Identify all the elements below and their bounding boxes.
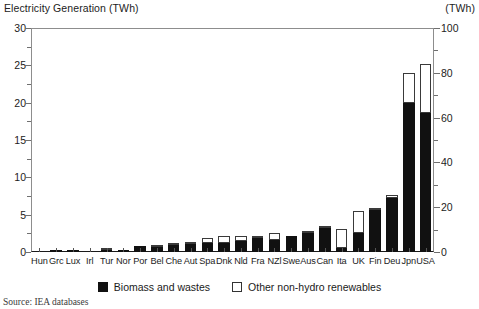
x-label-hun: Hun <box>31 256 48 266</box>
y-tick-label-left: 5 <box>0 209 26 221</box>
y-tick-minor-right <box>434 230 438 231</box>
x-tick-mark <box>224 248 225 252</box>
source-note: Source: IEA databases <box>3 297 88 307</box>
x-tick-mark <box>392 248 393 252</box>
x-tick-mark <box>241 248 242 252</box>
bar-deu[interactable] <box>386 195 398 252</box>
x-label-spa: Spa <box>199 256 215 266</box>
legend-item-other-renewables[interactable]: Other non-hydro renewables <box>232 281 381 293</box>
x-label-nzl: NZl <box>267 256 281 266</box>
chart-title-right: (TWh) <box>445 2 475 14</box>
x-tick-mark <box>90 248 91 252</box>
y-tick-label-right: 60 <box>441 112 471 124</box>
y-tick-minor-right <box>434 95 438 96</box>
x-tick-mark <box>291 248 292 252</box>
x-tick-mark <box>123 248 124 252</box>
x-label-nor: Nor <box>116 256 131 266</box>
x-label-jpn: Jpn <box>402 256 417 266</box>
y-tick-label-left: 25 <box>0 59 26 71</box>
bar-segment-biomass <box>386 198 398 252</box>
x-tick-mark <box>56 248 57 252</box>
bar-series-group <box>31 28 434 252</box>
x-tick-mark <box>39 248 40 252</box>
y-tick-minor-right <box>434 185 438 186</box>
x-label-deu: Deu <box>384 256 401 266</box>
legend-label: Other non-hydro renewables <box>248 281 381 293</box>
y-tick-mark-right <box>434 252 440 253</box>
y-tick-mark-right <box>434 28 440 29</box>
bar-segment-other-renewables <box>269 233 281 240</box>
x-tick-mark <box>191 248 192 252</box>
x-label-bel: Bel <box>150 256 163 266</box>
y-tick-label-left: 10 <box>0 171 26 183</box>
x-tick-mark <box>140 248 141 252</box>
y-tick-label-right: 40 <box>441 156 471 168</box>
x-label-can: Can <box>317 256 334 266</box>
y-tick-label-right: 80 <box>441 67 471 79</box>
x-tick-mark <box>426 248 427 252</box>
y-tick-label-left: 20 <box>0 97 26 109</box>
x-label-dnk: Dnk <box>216 256 232 266</box>
x-label-fin: Fin <box>369 256 381 266</box>
y-tick-mark-right <box>434 118 440 119</box>
bar-segment-biomass <box>369 210 381 252</box>
x-label-tur: Tur <box>100 256 113 266</box>
x-tick-mark <box>325 248 326 252</box>
chart-container: Electricity Generation (TWh) (TWh) 30252… <box>0 0 479 309</box>
x-label-usa: USA <box>416 256 435 266</box>
x-tick-mark <box>157 248 158 252</box>
bar-segment-biomass <box>403 103 415 252</box>
x-tick-mark <box>174 248 175 252</box>
bar-segment-other-renewables <box>353 211 365 233</box>
legend-swatch-icon <box>98 282 108 292</box>
x-label-por: Por <box>133 256 147 266</box>
x-tick-mark <box>342 248 343 252</box>
x-tick-mark <box>375 248 376 252</box>
bar-segment-biomass <box>420 113 432 252</box>
x-tick-mark <box>409 248 410 252</box>
bar-uk[interactable] <box>353 211 365 252</box>
y-tick-mark-right <box>434 73 440 74</box>
x-label-grc: Grc <box>49 256 64 266</box>
x-label-uk: UK <box>352 256 365 266</box>
chart-title-left: Electricity Generation (TWh) <box>4 2 139 14</box>
y-tick-mark-left <box>25 252 31 253</box>
chart-legend: Biomass and wastesOther non-hydro renewa… <box>0 281 479 293</box>
y-tick-label-left: 15 <box>0 134 26 146</box>
bar-usa[interactable] <box>420 64 432 252</box>
bar-segment-other-renewables <box>336 229 348 248</box>
legend-item-biomass[interactable]: Biomass and wastes <box>98 281 210 293</box>
bar-segment-other-renewables <box>420 64 432 113</box>
y-tick-label-right: 0 <box>441 246 471 258</box>
x-label-swe: Swe <box>282 256 300 266</box>
bar-segment-other-renewables <box>403 73 415 103</box>
y-tick-minor-right <box>434 50 438 51</box>
y-tick-label-left: 0 <box>0 246 26 258</box>
x-label-irl: Irl <box>86 256 93 266</box>
x-tick-mark <box>308 248 309 252</box>
legend-swatch-icon <box>232 282 242 292</box>
x-tick-mark <box>207 248 208 252</box>
bar-jpn[interactable] <box>403 73 415 252</box>
x-label-che: Che <box>165 256 182 266</box>
legend-label: Biomass and wastes <box>114 281 210 293</box>
x-label-ita: Ita <box>337 256 347 266</box>
y-tick-mark-right <box>434 207 440 208</box>
y-tick-mark-right <box>434 162 440 163</box>
y-tick-minor-right <box>434 140 438 141</box>
x-label-aus: Aus <box>300 256 316 266</box>
x-tick-mark <box>358 248 359 252</box>
x-label-fra: Fra <box>251 256 264 266</box>
y-tick-label-right: 100 <box>441 22 471 34</box>
x-label-lux: Lux <box>66 256 81 266</box>
x-tick-mark <box>274 248 275 252</box>
x-label-nld: Nld <box>234 256 248 266</box>
y-tick-label-left: 30 <box>0 22 26 34</box>
x-label-aut: Aut <box>184 256 198 266</box>
x-tick-mark <box>73 248 74 252</box>
x-tick-mark <box>258 248 259 252</box>
x-tick-mark <box>107 248 108 252</box>
bar-fin[interactable] <box>369 208 381 252</box>
y-tick-label-right: 20 <box>441 201 471 213</box>
